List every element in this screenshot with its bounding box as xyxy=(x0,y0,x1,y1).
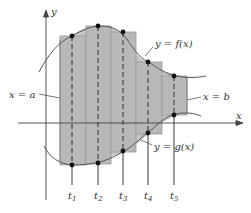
right-bound-label: x = b xyxy=(203,91,230,102)
f-curve-label: y = f(x) xyxy=(154,38,193,49)
sample-point-labels: t1 t2 t3 t4 t5 xyxy=(68,190,179,203)
dot-f-t5 xyxy=(172,74,177,79)
dot-g-t5 xyxy=(172,113,177,118)
dot-f-t2 xyxy=(96,24,101,29)
rectangle-1 xyxy=(60,36,86,165)
dot-g-t2 xyxy=(96,161,101,166)
g-curve-label: y = g(x) xyxy=(153,141,194,152)
t4-label: t4 xyxy=(144,190,153,203)
rectangle-2 xyxy=(86,26,111,164)
t5-label: t5 xyxy=(170,190,179,203)
t2-label: t2 xyxy=(94,190,103,203)
riemann-region-diagram: y x y = f(x) y = g(x) x = a x = b t1 t2 … xyxy=(0,0,251,213)
dot-g-t1 xyxy=(70,163,75,168)
y-axis-arrow-icon xyxy=(44,10,49,17)
y-axis-label: y xyxy=(50,6,57,17)
x-axis-arrow-icon xyxy=(236,121,243,126)
dot-g-t4 xyxy=(146,131,151,136)
left-bound-label: x = a xyxy=(9,89,35,100)
dot-g-t3 xyxy=(121,149,126,154)
dot-f-t3 xyxy=(121,30,126,35)
t3-label: t3 xyxy=(119,190,128,203)
dot-f-t4 xyxy=(146,60,151,65)
t1-label: t1 xyxy=(68,190,77,203)
dot-f-t1 xyxy=(70,34,75,39)
rectangle-5 xyxy=(162,76,187,115)
x-axis-label: x xyxy=(236,110,242,121)
rectangle-3 xyxy=(111,32,136,152)
